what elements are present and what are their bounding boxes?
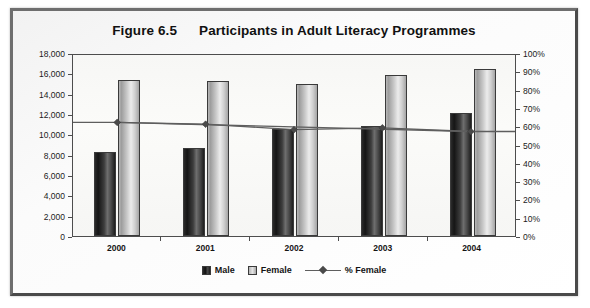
- y-tick-label-left: 4,000: [13, 192, 65, 201]
- bar-female-2004: [474, 69, 496, 236]
- x-tick-label-2001: 2001: [161, 243, 250, 253]
- y-tick-mark-right: [516, 182, 520, 183]
- figure-title: Figure 6.5Participants in Adult Literacy…: [13, 23, 575, 38]
- bar-male-2000: [94, 152, 116, 236]
- y-tick-mark-right: [516, 146, 520, 147]
- bar-female-2002: [296, 84, 318, 237]
- figure-root: Figure 6.5Participants in Adult Literacy…: [0, 0, 590, 308]
- y-tick-mark-right: [516, 91, 520, 92]
- y-tick-label-left: 10,000: [13, 131, 65, 140]
- y-tick-mark-left: [68, 74, 72, 75]
- y-tick-label-left: 12,000: [13, 111, 65, 120]
- y-tick-label-right: 40%: [523, 160, 540, 169]
- y-tick-label-right: 90%: [523, 68, 540, 77]
- chart-legend: Male Female % Female: [13, 265, 575, 275]
- y-tick-mark-right: [516, 237, 520, 238]
- y-tick-label-right: 20%: [523, 196, 540, 205]
- x-tick-mark: [338, 237, 339, 241]
- y-tick-mark-left: [68, 237, 72, 238]
- line-marker-icon: [305, 266, 341, 275]
- figure-frame: Figure 6.5Participants in Adult Literacy…: [10, 8, 578, 296]
- y-tick-label-left: 14,000: [13, 91, 65, 100]
- x-tick-label-2004: 2004: [427, 243, 516, 253]
- y-tick-mark-left: [68, 156, 72, 157]
- figure-title-text: Participants in Adult Literacy Programme…: [199, 23, 476, 38]
- y-tick-mark-right: [516, 72, 520, 73]
- y-tick-mark-left: [68, 196, 72, 197]
- y-tick-label-left: 0: [13, 233, 65, 242]
- legend-label-male: Male: [215, 265, 235, 275]
- figure-card: Figure 6.5Participants in Adult Literacy…: [13, 11, 575, 293]
- y-tick-mark-right: [516, 219, 520, 220]
- legend-item-female: Female: [248, 265, 292, 275]
- y-tick-mark-right: [516, 54, 520, 55]
- y-tick-mark-right: [516, 200, 520, 201]
- x-tick-mark: [160, 237, 161, 241]
- bar-female-2003: [385, 75, 407, 236]
- y-tick-mark-left: [68, 54, 72, 55]
- y-tick-mark-left: [68, 176, 72, 177]
- legend-label-pct-female: % Female: [345, 265, 387, 275]
- bar-male-2002: [272, 129, 294, 236]
- x-tick-label-2000: 2000: [72, 243, 161, 253]
- bar-female-2001: [207, 81, 229, 236]
- male-swatch-icon: [202, 266, 211, 275]
- bar-male-2003: [361, 126, 383, 236]
- figure-number: Figure 6.5: [112, 23, 177, 38]
- plot-area: [72, 54, 516, 237]
- y-tick-mark-left: [68, 135, 72, 136]
- female-swatch-icon: [248, 266, 257, 275]
- legend-item-male: Male: [202, 265, 235, 275]
- y-tick-mark-right: [516, 109, 520, 110]
- legend-label-female: Female: [261, 265, 292, 275]
- y-tick-label-right: 60%: [523, 123, 540, 132]
- y-tick-mark-right: [516, 164, 520, 165]
- y-tick-label-right: 30%: [523, 178, 540, 187]
- bar-female-2000: [118, 80, 140, 236]
- x-tick-label-2003: 2003: [338, 243, 427, 253]
- y-tick-mark-left: [68, 95, 72, 96]
- y-tick-label-right: 0%: [523, 233, 535, 242]
- y-tick-label-right: 70%: [523, 105, 540, 114]
- y-tick-label-left: 6,000: [13, 172, 65, 181]
- bar-male-2001: [183, 148, 205, 236]
- x-tick-mark: [427, 237, 428, 241]
- x-tick-label-2002: 2002: [250, 243, 339, 253]
- y-tick-label-left: 18,000: [13, 50, 65, 59]
- y-tick-mark-left: [68, 217, 72, 218]
- y-tick-mark-left: [68, 115, 72, 116]
- legend-item-pct-female: % Female: [305, 265, 387, 275]
- y-tick-label-left: 8,000: [13, 152, 65, 161]
- y-tick-label-right: 10%: [523, 215, 540, 224]
- y-tick-label-left: 16,000: [13, 70, 65, 79]
- y-tick-label-right: 80%: [523, 87, 540, 96]
- y-tick-label-left: 2,000: [13, 213, 65, 222]
- y-tick-label-right: 100%: [523, 50, 545, 59]
- y-tick-mark-right: [516, 127, 520, 128]
- bar-male-2004: [450, 113, 472, 236]
- x-tick-mark: [249, 237, 250, 241]
- y-tick-label-right: 50%: [523, 142, 540, 151]
- plot-inner: [73, 55, 515, 236]
